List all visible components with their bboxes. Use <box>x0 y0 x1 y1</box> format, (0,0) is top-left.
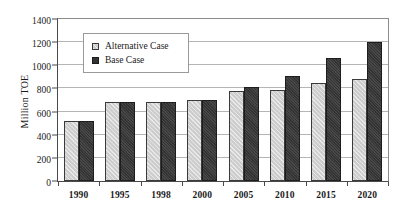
bar-base-case-2015 <box>326 58 341 181</box>
bar-alternative-case-1990 <box>64 121 79 181</box>
bar-base-case-2020 <box>367 42 382 181</box>
bar-group-2010 <box>264 19 305 181</box>
bar-base-case-2000 <box>202 100 217 181</box>
x-tick-label-1998: 1998 <box>141 190 182 200</box>
alternative-case-swatch-icon <box>92 43 99 50</box>
bar-base-case-2005 <box>244 87 259 181</box>
y-tick-label: 1200 <box>32 39 51 49</box>
bar-alternative-case-1998 <box>146 102 161 181</box>
x-tick-mark <box>99 182 100 186</box>
x-tick-label-2020: 2020 <box>347 190 388 200</box>
bar-base-case-1990 <box>79 121 94 181</box>
x-tick-label-2010: 2010 <box>264 190 305 200</box>
y-tick-label: 1000 <box>32 62 51 72</box>
bar-chart: Million TOE 0200400600800100012001400 19… <box>0 0 418 216</box>
x-tick-mark <box>223 182 224 186</box>
x-tick-label-2015: 2015 <box>306 190 347 200</box>
x-axis-labels: 19901995199820002005201020152020 <box>58 190 388 200</box>
bar-base-case-1998 <box>161 102 176 181</box>
x-tick-mark <box>182 182 183 186</box>
x-tick-mark <box>347 182 348 186</box>
bar-alternative-case-1995 <box>105 102 120 181</box>
legend-label-base-case: Base Case <box>105 55 144 65</box>
x-tick-mark <box>388 182 389 186</box>
y-tick-label: 600 <box>37 109 51 119</box>
x-tick-label-2000: 2000 <box>182 190 223 200</box>
x-tick-mark <box>264 182 265 186</box>
y-tick-label: 0 <box>46 178 51 188</box>
x-tick-mark <box>58 182 59 186</box>
y-tick-label: 400 <box>37 132 51 142</box>
base-case-swatch-icon <box>92 57 99 64</box>
y-tick-label: 800 <box>37 85 51 95</box>
bar-group-2005 <box>223 19 264 181</box>
y-axis-ticks: 0200400600800100012001400 <box>0 18 57 182</box>
legend-label-alternative-case: Alternative Case <box>105 41 169 51</box>
y-tick-label: 1400 <box>32 16 51 26</box>
x-tick-label-1995: 1995 <box>99 190 140 200</box>
bar-alternative-case-2010 <box>270 90 285 181</box>
bar-alternative-case-2020 <box>352 79 367 181</box>
bar-base-case-1995 <box>120 102 135 181</box>
x-tick-label-1990: 1990 <box>58 190 99 200</box>
bar-alternative-case-2005 <box>229 91 244 181</box>
bar-alternative-case-2015 <box>311 83 326 181</box>
x-tick-label-2005: 2005 <box>223 190 264 200</box>
legend-item-base-case: Base Case <box>92 53 181 67</box>
y-tick-label: 200 <box>37 155 51 165</box>
chart-legend: Alternative Case Base Case <box>83 33 189 73</box>
bar-alternative-case-2000 <box>187 100 202 181</box>
legend-item-alternative-case: Alternative Case <box>92 39 181 53</box>
x-tick-mark <box>306 182 307 186</box>
bar-group-2020 <box>347 19 388 181</box>
x-tick-mark <box>141 182 142 186</box>
bar-base-case-2010 <box>285 76 300 181</box>
bar-group-2015 <box>306 19 347 181</box>
